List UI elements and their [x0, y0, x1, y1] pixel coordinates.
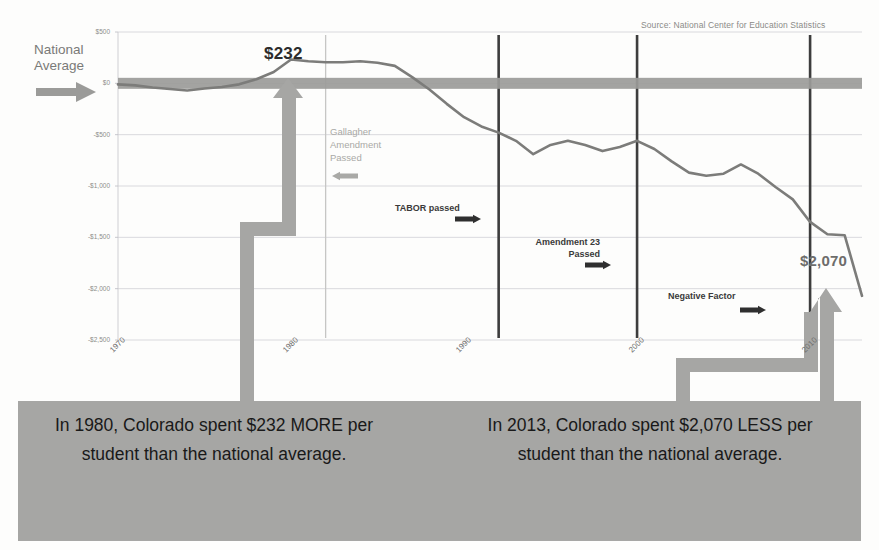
infographic-canvas: $500$0-$500-$1,000-$1,500-$2,000-$2,500 … [0, 0, 879, 550]
source-note: Source: National Center for Education St… [641, 20, 825, 30]
event-arrow-icon-gallagher [332, 172, 358, 180]
national-average-reference-band [118, 78, 862, 89]
y-axis-tick-label: -$500 [70, 131, 110, 138]
trough-value-callout: $2,070 [800, 252, 847, 269]
caption-left: In 1980, Colorado spent $232 MORE per st… [34, 411, 394, 469]
y-axis-tick-label: -$2,500 [70, 336, 110, 343]
event-arrow-icon-tabor [455, 215, 481, 223]
event-label-gallagher: Gallagher Amendment Passed [330, 125, 381, 164]
caption-right: In 2013, Colorado spent $2,070 LESS per … [470, 411, 830, 469]
national-average-label: National Average [34, 42, 84, 74]
peak-value-callout: $232 [264, 44, 303, 64]
callout-arrow-2013 [676, 288, 842, 405]
event-arrow-icon-amend23 [585, 261, 611, 269]
y-axis-tick-label: -$1,500 [70, 233, 110, 240]
y-axis-tick-label: $0 [70, 79, 110, 86]
data-series-line [118, 60, 862, 296]
y-axis-tick-label: $500 [70, 28, 110, 35]
callout-arrow-1980 [240, 78, 303, 405]
event-label-amend23: Amendment 23 Passed [520, 236, 600, 260]
caption-band: In 1980, Colorado spent $232 MORE per st… [18, 401, 861, 541]
y-axis-tick-label: -$1,000 [70, 182, 110, 189]
y-axis-tick-label: -$2,000 [70, 285, 110, 292]
event-arrow-icon-negfactor [740, 306, 766, 314]
event-label-tabor: TABOR passed [395, 202, 460, 214]
event-label-negfactor: Negative Factor [668, 290, 736, 302]
